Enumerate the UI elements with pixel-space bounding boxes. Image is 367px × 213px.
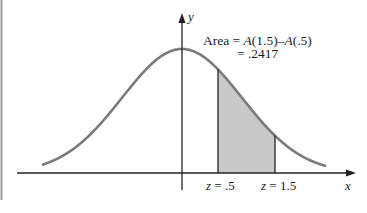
z-0.5-label: z = .5 <box>205 178 235 193</box>
y-axis-label: y <box>186 9 194 24</box>
shaded-area <box>218 69 275 173</box>
x-axis-label: x <box>344 178 351 193</box>
normal-curve-figure: y x Area = A(1.5)–A(.5) = .2417 z = .5 z… <box>0 0 367 213</box>
y-axis-arrow-icon <box>179 13 186 23</box>
area-annotation-line2: = .2417 <box>237 46 279 61</box>
x-axis-arrow-icon <box>346 170 356 177</box>
z-1.5-label: z = 1.5 <box>260 178 296 193</box>
normal-curve <box>43 49 325 166</box>
